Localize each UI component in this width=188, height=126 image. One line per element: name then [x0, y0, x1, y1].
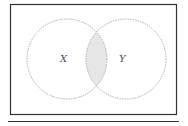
label-y: Y — [119, 53, 127, 64]
venn-diagram: X Y — [0, 0, 188, 126]
label-x: X — [59, 53, 68, 64]
intersection-shading — [86, 19, 166, 99]
